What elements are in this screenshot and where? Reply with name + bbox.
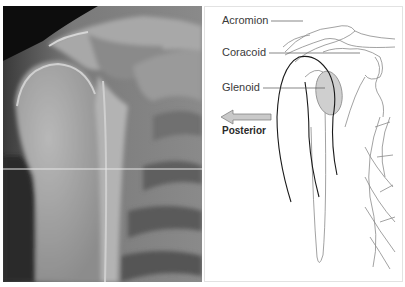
left-arrow-icon xyxy=(221,110,271,124)
xray-graphic xyxy=(3,6,202,282)
bone-outlines xyxy=(283,26,395,269)
xray-soft-tissue xyxy=(3,156,35,282)
label-acromion: Acromion xyxy=(222,14,268,26)
glenoid-shape xyxy=(313,69,345,116)
anatomy-diagram: Acromion Coracoid Glenoid Posterior xyxy=(204,6,403,282)
label-posterior: Posterior xyxy=(222,125,266,136)
label-glenoid: Glenoid xyxy=(222,81,260,93)
xray-image xyxy=(3,6,202,282)
label-coracoid: Coracoid xyxy=(222,46,266,58)
shoulder-figure: Acromion Coracoid Glenoid Posterior xyxy=(3,6,403,282)
